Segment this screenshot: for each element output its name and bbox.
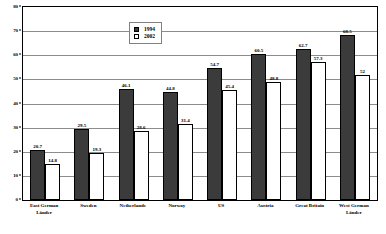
y-tick-mark (19, 78, 21, 79)
bar[interactable] (163, 92, 178, 200)
bar[interactable] (45, 164, 60, 200)
bar-value-label: 20.7 (33, 144, 42, 149)
bar-value-label: 60.5 (255, 48, 264, 53)
y-tick-label: 50 (13, 76, 18, 81)
y-tick-label: 70 (13, 28, 18, 33)
plot-area: 20.714.829.519.346.128.644.831.454.745.4… (22, 6, 378, 201)
y-tick-label: 30 (13, 124, 18, 129)
bar-value-label: 31.4 (181, 118, 190, 123)
bar[interactable] (134, 131, 149, 200)
y-tick-mark (19, 199, 21, 200)
y-tick-label: 20 (13, 148, 18, 153)
legend-label: 1994 (144, 27, 155, 33)
x-tick-label: Sweden (66, 203, 110, 210)
x-axis: East German LänderSwedenNetherlandsNorwa… (22, 203, 378, 233)
bar-chart: 01020304050607080 20.714.829.519.346.128… (0, 0, 386, 234)
bar[interactable] (251, 54, 266, 200)
y-tick-label: 0 (16, 197, 18, 202)
y-tick-label: 40 (13, 100, 18, 105)
bar-wrap: 45.4 (222, 7, 237, 200)
bar[interactable] (30, 150, 45, 200)
x-tick-label: Netherlands (111, 203, 155, 210)
bar-wrap: 14.8 (45, 7, 60, 200)
bar-wrap: 19.3 (89, 7, 104, 200)
bar-group: 29.519.3 (67, 7, 111, 200)
bar-value-label: 48.8 (270, 76, 279, 81)
bar-wrap: 60.5 (251, 7, 266, 200)
bar-value-label: 54.7 (210, 62, 219, 67)
legend-label: 2002 (144, 34, 155, 40)
bar-value-label: 19.3 (93, 147, 102, 152)
y-tick-mark (19, 54, 21, 55)
chart-legend: 1994 2002 (129, 22, 162, 44)
empty-square-icon (134, 34, 139, 39)
x-tick-label: Great Britain (288, 203, 332, 210)
bar[interactable] (178, 124, 193, 200)
legend-item-1994: 1994 (134, 27, 155, 33)
bar-value-label: 28.6 (137, 125, 146, 130)
y-tick-label: 80 (13, 4, 18, 9)
filled-square-icon (134, 27, 139, 32)
x-tick-label: East German Länder (22, 203, 66, 217)
y-tick-mark (19, 126, 21, 127)
bar[interactable] (340, 35, 355, 200)
y-tick-mark (19, 174, 21, 175)
y-tick-label: 60 (13, 52, 18, 57)
bar[interactable] (266, 82, 281, 200)
bar-group: 54.745.4 (200, 7, 244, 200)
bar-group: 20.714.8 (23, 7, 67, 200)
bar[interactable] (311, 62, 326, 200)
bar-value-label: 68.5 (343, 29, 352, 34)
bar[interactable] (355, 75, 370, 200)
bar-value-label: 44.8 (166, 86, 175, 91)
bar-wrap: 68.5 (340, 7, 355, 200)
y-tick-label: 10 (13, 172, 18, 177)
bars-layer: 20.714.829.519.346.128.644.831.454.745.4… (23, 7, 377, 200)
x-tick-label: US (199, 203, 243, 210)
bar-group: 68.552 (333, 7, 377, 200)
y-tick-mark (19, 30, 21, 31)
y-tick-mark (19, 6, 21, 7)
bar-value-label: 57.3 (314, 56, 323, 61)
bar-value-label: 14.8 (48, 158, 57, 163)
bar[interactable] (74, 129, 89, 200)
bar-wrap: 20.7 (30, 7, 45, 200)
x-tick-label: Austria (243, 203, 287, 210)
bar-wrap: 62.7 (296, 7, 311, 200)
bar[interactable] (207, 68, 222, 200)
bar-value-label: 45.4 (225, 84, 234, 89)
bar-value-label: 52 (360, 69, 365, 74)
bar[interactable] (89, 153, 104, 200)
bar-value-label: 29.5 (78, 123, 87, 128)
bar[interactable] (119, 89, 134, 200)
bar-wrap: 48.8 (266, 7, 281, 200)
x-tick-label: Norway (155, 203, 199, 210)
y-tick-mark (19, 150, 21, 151)
bar-value-label: 46.1 (122, 83, 131, 88)
bar[interactable] (222, 90, 237, 200)
y-axis: 01020304050607080 (0, 6, 21, 201)
bar-wrap: 31.4 (178, 7, 193, 200)
bar-group: 60.548.8 (244, 7, 288, 200)
bar-group: 44.831.4 (156, 7, 200, 200)
bar-wrap: 44.8 (163, 7, 178, 200)
bar-wrap: 57.3 (311, 7, 326, 200)
bar[interactable] (296, 49, 311, 200)
bar-wrap: 29.5 (74, 7, 89, 200)
bar-group: 62.757.3 (289, 7, 333, 200)
bar-wrap: 54.7 (207, 7, 222, 200)
y-tick-mark (19, 102, 21, 103)
x-tick-label: West German Länder (332, 203, 376, 217)
bar-value-label: 62.7 (299, 43, 308, 48)
legend-item-2002: 2002 (134, 34, 155, 40)
bar-wrap: 52 (355, 7, 370, 200)
